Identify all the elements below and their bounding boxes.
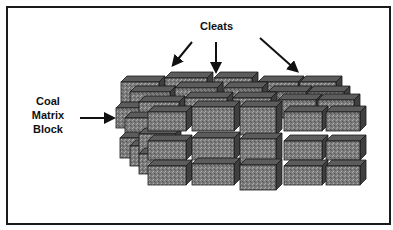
coal-block <box>192 158 240 185</box>
coal-block <box>148 106 192 131</box>
coal-block <box>192 132 240 160</box>
cleats-label: Cleats <box>200 19 233 33</box>
coal-block <box>326 160 366 185</box>
coal-matrix-blocks <box>116 72 366 190</box>
coal-block <box>192 101 240 131</box>
coal-block <box>148 160 192 185</box>
coal-block <box>240 159 282 190</box>
coal-block <box>148 135 192 160</box>
coal-label-line1: Coal <box>26 94 70 108</box>
coal-block <box>284 135 328 160</box>
cleats-arrow-left-icon <box>174 42 192 64</box>
coal-block <box>326 135 366 160</box>
coal-label-line3: Block <box>26 122 70 136</box>
coal-block <box>240 101 282 135</box>
coal-matrix-block-label: Coal Matrix Block <box>26 94 70 136</box>
coal-block <box>284 160 328 185</box>
coal-label-line2: Matrix <box>26 108 70 122</box>
cleats-arrow-right-icon <box>260 38 296 70</box>
coal-block <box>326 106 366 131</box>
coal-block <box>284 106 328 131</box>
